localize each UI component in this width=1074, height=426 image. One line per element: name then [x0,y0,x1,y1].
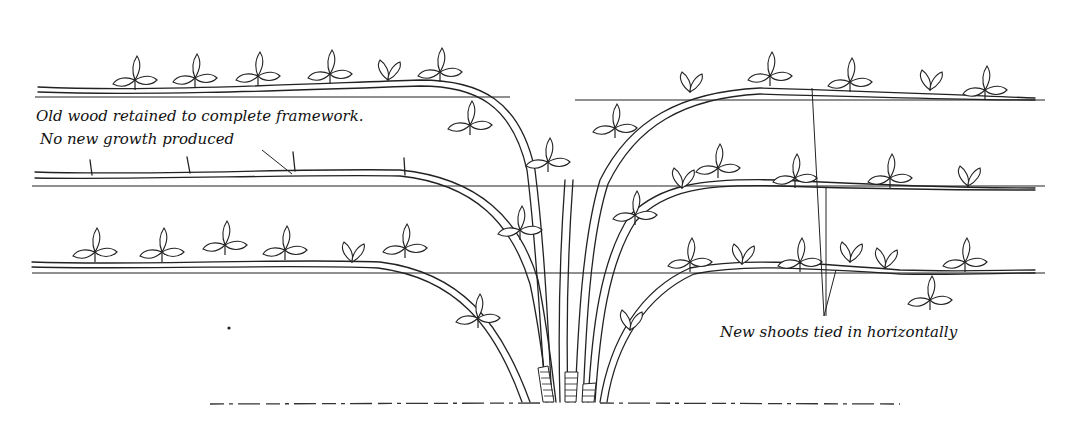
center-shoots [559,180,573,402]
label-no-new-growth: No new growth produced [40,132,234,147]
label-new-shoots: New shoots tied in horizontally [720,325,957,340]
label-old-wood: Old wood retained to complete framework. [36,109,364,124]
plant-drawing [0,0,1074,426]
pruning-diagram: Old wood retained to complete framework.… [0,0,1074,426]
ground-line [210,403,900,404]
